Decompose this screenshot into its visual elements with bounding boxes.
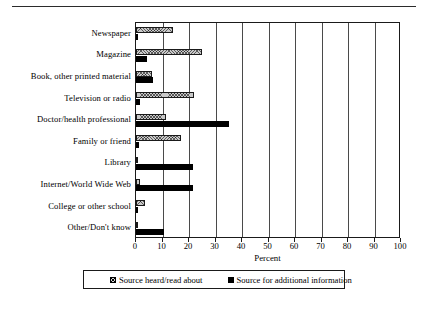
x-axis-title: Percent bbox=[135, 253, 400, 263]
gridline-30 bbox=[216, 23, 217, 237]
bar-additional-4 bbox=[136, 121, 229, 127]
category-label-1: Magazine bbox=[0, 49, 131, 59]
top-divider-rule bbox=[12, 6, 416, 7]
category-label-5: Family or friend bbox=[0, 136, 131, 146]
x-tick-label-50: 50 bbox=[256, 241, 280, 252]
category-axis-labels: NewspaperMagazineBook, other printed mat… bbox=[0, 22, 131, 238]
legend-label-additional: Source for additional information bbox=[237, 275, 352, 285]
gridline-60 bbox=[295, 23, 296, 237]
bar-additional-5 bbox=[136, 142, 139, 148]
gridline-40 bbox=[242, 23, 243, 237]
gridline-20 bbox=[189, 23, 190, 237]
bar-heard-3 bbox=[136, 92, 194, 98]
x-tick-label-60: 60 bbox=[282, 241, 306, 252]
category-label-9: Other/Don't know bbox=[0, 222, 131, 232]
bar-heard-4 bbox=[136, 114, 166, 120]
x-tick-label-10: 10 bbox=[150, 241, 174, 252]
x-tick-label-90: 90 bbox=[362, 241, 386, 252]
x-tick-label-100: 100 bbox=[388, 241, 412, 252]
gridline-80 bbox=[348, 23, 349, 237]
bar-heard-2 bbox=[136, 71, 152, 77]
bar-additional-6 bbox=[136, 164, 193, 170]
x-tick-label-30: 30 bbox=[203, 241, 227, 252]
x-tick-label-20: 20 bbox=[176, 241, 200, 252]
category-label-3: Television or radio bbox=[0, 93, 131, 103]
bar-additional-9 bbox=[136, 229, 164, 235]
legend-entry-source-additional-information: Source for additional information bbox=[228, 275, 352, 285]
bar-additional-8 bbox=[136, 207, 138, 213]
bar-heard-5 bbox=[136, 135, 181, 141]
legend-label-heard: Source heard/read about bbox=[119, 275, 203, 285]
chart-plot-area bbox=[135, 22, 400, 238]
x-tick-label-40: 40 bbox=[229, 241, 253, 252]
bar-heard-8 bbox=[136, 200, 145, 206]
bar-additional-0 bbox=[136, 34, 138, 40]
solid-black-swatch-icon bbox=[228, 277, 234, 283]
gridline-90 bbox=[375, 23, 376, 237]
bar-heard-1 bbox=[136, 49, 202, 55]
gridline-50 bbox=[269, 23, 270, 237]
category-label-0: Newspaper bbox=[0, 28, 131, 38]
category-label-8: College or other school bbox=[0, 201, 131, 211]
bar-additional-2 bbox=[136, 77, 153, 83]
category-label-4: Doctor/health professional bbox=[0, 114, 131, 124]
legend-entry-source-heard-read-about: Source heard/read about bbox=[110, 275, 203, 285]
x-tick-label-0: 0 bbox=[123, 241, 147, 252]
bar-heard-7 bbox=[136, 179, 140, 185]
gridline-70 bbox=[322, 23, 323, 237]
bar-heard-6 bbox=[136, 157, 138, 163]
gridline-10 bbox=[163, 23, 164, 237]
category-label-2: Book, other printed material bbox=[0, 71, 131, 81]
x-tick-label-70: 70 bbox=[309, 241, 333, 252]
category-label-6: Library bbox=[0, 157, 131, 167]
bar-heard-9 bbox=[136, 222, 138, 228]
x-tick-label-80: 80 bbox=[335, 241, 359, 252]
bar-additional-7 bbox=[136, 185, 193, 191]
hatched-swatch-icon bbox=[110, 277, 116, 283]
category-label-7: Internet/World Wide Web bbox=[0, 179, 131, 189]
chart-legend: Source heard/read about Source for addit… bbox=[83, 270, 345, 289]
bar-additional-3 bbox=[136, 99, 140, 105]
bar-heard-0 bbox=[136, 27, 173, 33]
bar-additional-1 bbox=[136, 56, 147, 62]
